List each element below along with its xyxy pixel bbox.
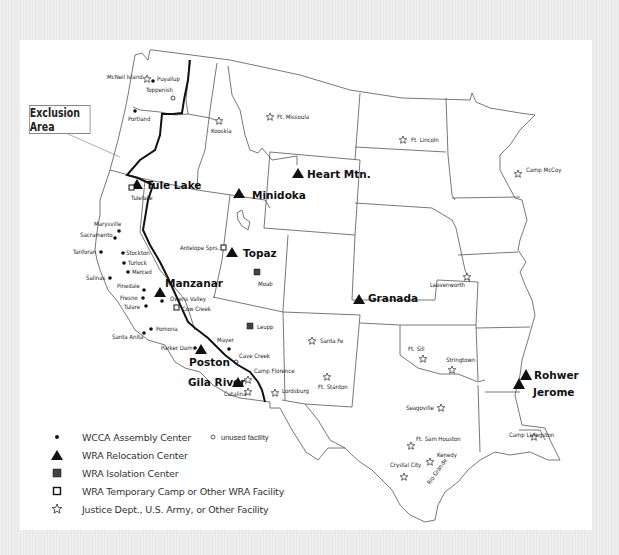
dot-icon[interactable] xyxy=(117,229,121,233)
dot-icon xyxy=(52,432,62,442)
dot-icon[interactable] xyxy=(151,79,155,83)
star-icon[interactable] xyxy=(463,273,471,280)
open-square-icon[interactable] xyxy=(221,245,226,250)
legend-item-wra-isolation: WRA Isolation Center xyxy=(48,464,284,482)
site-label: Seagoville xyxy=(406,404,434,412)
dot-icon[interactable] xyxy=(133,109,137,113)
site-label: Mayer xyxy=(217,336,234,344)
dot-icon[interactable] xyxy=(99,250,103,254)
star-icon[interactable] xyxy=(143,75,151,82)
open-square-icon[interactable] xyxy=(174,305,179,310)
site-label: Toppenish xyxy=(145,86,173,94)
star-icon[interactable] xyxy=(215,117,223,124)
star-icon[interactable] xyxy=(400,473,408,480)
site-label-heart-mtn: Heart Mtn. xyxy=(307,168,371,180)
dot-icon[interactable] xyxy=(142,288,146,292)
legend-item-wra-temporary: WRA Temporary Camp or Other WRA Facility xyxy=(48,482,284,500)
triangle-icon[interactable] xyxy=(353,294,365,304)
star-icon[interactable] xyxy=(448,366,456,373)
dot-icon[interactable] xyxy=(121,251,125,255)
dot-icon[interactable] xyxy=(108,276,112,280)
star-icon[interactable] xyxy=(426,458,434,465)
site-label: Lordsburg xyxy=(282,387,309,395)
site-label: Crystal City xyxy=(390,461,422,469)
site-label-poston: Poston xyxy=(189,356,230,368)
site-label: Cave Creek xyxy=(239,352,271,359)
exclusion-boundary xyxy=(127,60,265,402)
circle-icon xyxy=(209,433,217,441)
site-label: Stringtown xyxy=(446,356,475,364)
site-label-topaz: Topaz xyxy=(243,247,277,259)
site-label: Merced xyxy=(132,268,152,275)
dot-icon[interactable] xyxy=(160,299,164,303)
open-square-icon xyxy=(52,486,62,496)
dot-icon[interactable] xyxy=(141,296,145,300)
legend-item-justice-army: Justice Dept., U.S. Army, or Other Facil… xyxy=(48,500,284,518)
star-icon[interactable] xyxy=(407,442,415,449)
site-label: Puyallup xyxy=(157,75,180,83)
star-icon[interactable] xyxy=(323,373,331,380)
filled-square-icon[interactable] xyxy=(254,269,260,275)
site-label-tule-lake: Tule Lake xyxy=(146,179,201,191)
site-label: Camp Florence xyxy=(254,367,295,375)
site-label-minidoka: Minidoka xyxy=(252,189,306,201)
triangle-icon[interactable] xyxy=(520,369,532,380)
site-label: Tulelake xyxy=(130,194,153,201)
triangle-icon[interactable] xyxy=(233,188,245,198)
site-label: Sacramento xyxy=(80,231,113,238)
map-legend: WCCA Assembly Center unused facility WRA… xyxy=(48,428,284,518)
legend-item-wra-relocation: WRA Relocation Center xyxy=(48,446,284,464)
dot-icon[interactable] xyxy=(149,327,153,331)
site-label: Marysville xyxy=(94,220,122,228)
site-label: Turlock xyxy=(127,259,148,266)
site-label-gila-river: Gila River xyxy=(188,376,246,388)
dot-icon[interactable] xyxy=(193,346,197,350)
star-icon[interactable] xyxy=(266,113,274,120)
legend-label: WCCA Assembly Center xyxy=(82,432,191,443)
site-label: Kenedy xyxy=(437,451,458,459)
dot-icon[interactable] xyxy=(113,236,117,240)
star-icon[interactable] xyxy=(437,404,445,411)
legend-label: WRA Temporary Camp or Other WRA Facility xyxy=(82,486,284,497)
star-icon[interactable] xyxy=(419,355,427,362)
site-label: Kooskia xyxy=(211,127,232,134)
triangle-icon[interactable] xyxy=(292,168,304,178)
legend-label: WRA Isolation Center xyxy=(82,468,178,479)
site-label: Parker Dam xyxy=(161,344,192,351)
legend-label: Justice Dept., U.S. Army, or Other Facil… xyxy=(82,504,268,515)
open-square-icon[interactable] xyxy=(129,185,134,190)
dot-icon[interactable] xyxy=(126,270,130,274)
wra-isolation-centers: Moab Leupp xyxy=(247,269,274,331)
star-icon[interactable] xyxy=(308,337,316,344)
site-label: Leavenworth xyxy=(430,281,465,288)
site-label: Ft. Lincoln xyxy=(411,136,439,143)
dot-icon[interactable] xyxy=(144,304,148,308)
site-label-granada: Granada xyxy=(368,292,418,304)
site-label: Ft. Sill xyxy=(408,345,425,352)
star-icon[interactable] xyxy=(271,389,279,396)
site-label: Camp McCoy xyxy=(526,166,562,174)
site-label: Pomona xyxy=(156,325,178,332)
site-label: Ft. Sam Houston xyxy=(416,435,461,442)
filled-square-icon[interactable] xyxy=(247,323,253,329)
dot-icon[interactable] xyxy=(122,261,126,265)
star-icon[interactable] xyxy=(514,170,522,177)
triangle-icon[interactable] xyxy=(226,247,238,257)
site-label: Tulare xyxy=(123,303,141,310)
legend-unused-facility: unused facility xyxy=(209,433,269,442)
site-label: Cow Creek xyxy=(182,305,212,312)
site-label-manzanar: Manzanar xyxy=(165,277,224,289)
site-label: Santa Fe xyxy=(320,337,344,344)
triangle-icon[interactable] xyxy=(195,344,207,354)
dot-icon[interactable] xyxy=(227,347,231,351)
star-icon[interactable] xyxy=(399,136,407,143)
legend-label: WRA Relocation Center xyxy=(82,450,188,461)
site-label: Camp Livingston xyxy=(509,431,554,439)
site-label: Catalina xyxy=(224,390,246,397)
site-label: Pinedale xyxy=(117,282,141,289)
site-label: Fresno xyxy=(120,294,138,301)
circle-icon[interactable] xyxy=(171,96,175,100)
legend-item-wcca: WCCA Assembly Center unused facility xyxy=(48,428,284,446)
site-label: Owens Valley xyxy=(170,295,207,303)
legend-extra-label: unused facility xyxy=(221,433,269,442)
